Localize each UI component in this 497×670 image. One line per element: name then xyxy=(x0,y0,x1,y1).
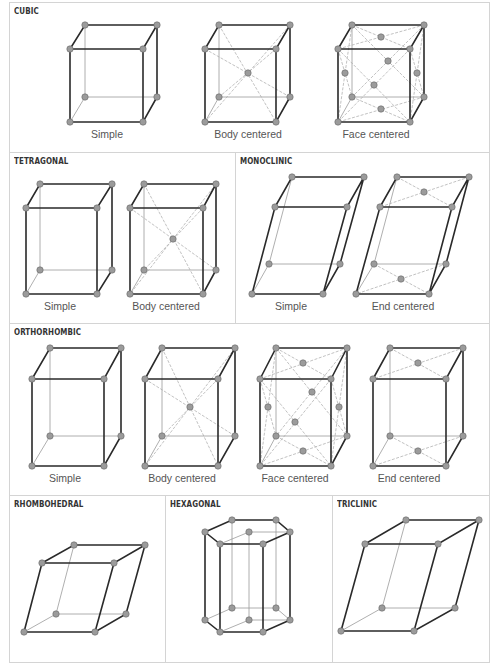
triclinic-lattice xyxy=(338,517,482,634)
orthorhombic-end-centered-lattice xyxy=(370,345,466,469)
caption-cubic-body-centered: Body centered xyxy=(214,128,282,140)
orthorhombic-simple-lattice xyxy=(29,345,124,469)
cubic-body-centered-lattice xyxy=(202,22,293,125)
caption-orthorhombic-body-centered: Body centered xyxy=(148,472,216,484)
tetragonal-simple-lattice xyxy=(23,181,115,297)
orthorhombic-face-centered-lattice xyxy=(257,345,350,469)
caption-tetragonal-simple: Simple xyxy=(44,300,76,312)
caption-orthorhombic-end-centered: End centered xyxy=(378,472,440,484)
tetragonal-body-centered-lattice xyxy=(127,181,219,297)
caption-monoclinic-end-centered: End centered xyxy=(372,300,434,312)
orthorhombic-body-centered-lattice xyxy=(142,345,238,469)
monoclinic-simple-lattice xyxy=(249,174,367,297)
caption-cubic-face-centered: Face centered xyxy=(342,128,409,140)
cubic-simple-lattice xyxy=(67,22,160,125)
caption-tetragonal-body-centered: Body centered xyxy=(132,300,200,312)
monoclinic-end-centered-lattice xyxy=(353,174,472,297)
caption-orthorhombic-face-centered: Face centered xyxy=(261,472,328,484)
rhombohedral-lattice xyxy=(21,542,148,635)
caption-orthorhombic-simple: Simple xyxy=(49,472,81,484)
crystal-lattice-drawings xyxy=(0,0,497,670)
hexagonal-lattice xyxy=(202,517,293,635)
caption-monoclinic-simple: Simple xyxy=(275,300,307,312)
cubic-face-centered-lattice xyxy=(335,22,427,125)
caption-cubic-simple: Simple xyxy=(91,128,123,140)
